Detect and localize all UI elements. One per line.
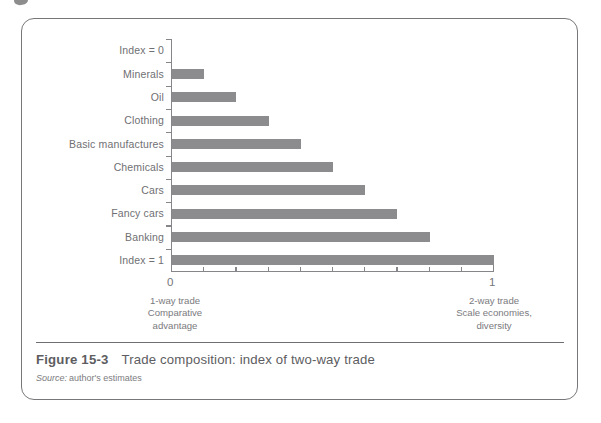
annotation-left-line-2: Comparative (125, 307, 225, 319)
bar-chart: Index = 0MineralsOilClothingBasic manufa… (22, 19, 579, 401)
bar-row: Basic manufactures (172, 132, 301, 155)
bar-row: Cars (172, 179, 365, 202)
bar (172, 116, 269, 126)
y-tick (166, 249, 171, 250)
y-tick-label: Index = 1 (119, 255, 164, 266)
bar (172, 232, 430, 242)
bar (172, 209, 397, 219)
source-label: Source: (36, 373, 67, 383)
bar (172, 255, 494, 265)
annotation-left: 1-way trade Comparative advantage (125, 295, 225, 332)
annotation-right: 2-way trade Scale economies, diversity (439, 295, 549, 332)
y-tick (166, 39, 171, 40)
bar (172, 185, 365, 195)
x-tick-label-min: 0 (167, 277, 173, 289)
bar-row: Oil (172, 86, 236, 109)
caption-divider (36, 342, 564, 343)
y-tick (166, 132, 171, 133)
bar-row: Clothing (172, 109, 269, 132)
y-tick (166, 156, 171, 157)
bar (172, 139, 301, 149)
y-tick-label: Basic manufactures (69, 139, 164, 150)
bar (172, 162, 333, 172)
y-tick-label: Cars (141, 185, 164, 196)
page: Index = 0MineralsOilClothingBasic manufa… (0, 0, 601, 423)
source-text: author's estimates (69, 373, 142, 383)
figure-caption: Figure 15-3Trade composition: index of t… (36, 350, 375, 368)
y-tick (166, 225, 171, 226)
y-tick-label: Banking (125, 232, 164, 243)
plot-area: Index = 0MineralsOilClothingBasic manufa… (171, 39, 493, 272)
annotation-right-line-3: diversity (439, 320, 549, 332)
y-tick (166, 62, 171, 63)
figure-source: Source:author's estimates (36, 373, 142, 383)
y-tick-label: Index = 0 (119, 45, 164, 56)
y-tick-label: Chemicals (114, 162, 164, 173)
x-tick-label-max: 1 (489, 277, 495, 289)
scan-artifact-mark (13, 0, 28, 6)
y-tick-label: Minerals (123, 69, 164, 80)
annotation-right-line-1: 2-way trade (439, 295, 549, 307)
bar (172, 69, 204, 79)
y-tick (166, 109, 171, 110)
y-tick-label: Fancy cars (111, 208, 164, 219)
bar-row: Minerals (172, 62, 204, 85)
y-tick (166, 86, 171, 87)
figure-panel: Index = 0MineralsOilClothingBasic manufa… (21, 18, 578, 400)
y-tick (166, 202, 171, 203)
annotation-left-line-3: advantage (125, 320, 225, 332)
bar-row: Banking (172, 225, 430, 248)
bar-row: Chemicals (172, 156, 333, 179)
bar (172, 92, 236, 102)
y-tick (166, 179, 171, 180)
y-tick-label: Clothing (124, 115, 164, 126)
bar-row: Fancy cars (172, 202, 397, 225)
figure-title: Trade composition: index of two-way trad… (122, 352, 375, 367)
annotation-right-line-2: Scale economies, (439, 307, 549, 319)
bar-row: Index = 1 (172, 249, 494, 272)
y-tick-label: Oil (151, 92, 164, 103)
figure-number: Figure 15-3 (36, 352, 109, 367)
annotation-left-line-1: 1-way trade (125, 295, 225, 307)
